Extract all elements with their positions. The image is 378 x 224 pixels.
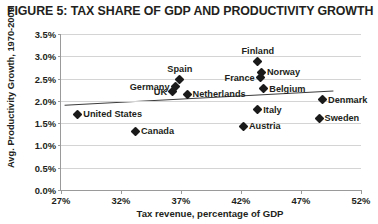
y-tick-label: 3.0% [35, 51, 56, 62]
data-point-label: Netherlands [193, 90, 246, 99]
y-tick-mark [58, 56, 62, 57]
data-point-label: Finland [241, 47, 274, 56]
scatter-chart: Avg. Productivity Growth, 1970-2009 Tax … [0, 18, 378, 224]
y-axis-label: Avg. Productivity Growth, 1970-2009 [6, 8, 16, 168]
data-point[interactable] [314, 113, 324, 123]
y-tick-mark [58, 145, 62, 146]
data-point-label: Norway [267, 68, 300, 77]
data-point-label: Germany [130, 83, 170, 92]
y-tick-mark [58, 34, 62, 35]
data-point-label: United States [83, 110, 142, 119]
y-tick-mark [58, 79, 62, 80]
data-point-label: Denmark [328, 96, 367, 105]
x-tick-label: 32% [112, 195, 131, 206]
y-tick-mark [58, 123, 62, 124]
x-tick-mark [181, 190, 182, 194]
gridline-horizontal [61, 56, 361, 57]
data-point[interactable] [259, 84, 269, 94]
data-point-label: Sweden [325, 114, 360, 123]
gridline-horizontal [61, 123, 361, 124]
x-tick-label: 42% [232, 195, 251, 206]
gridline-horizontal [61, 168, 361, 169]
y-tick-label: 0.5% [35, 162, 56, 173]
data-point-label: Italy [263, 106, 281, 115]
data-point[interactable] [130, 126, 140, 136]
data-point[interactable] [253, 57, 263, 67]
data-point-label: Canada [141, 127, 174, 136]
y-tick-label: 1.0% [35, 140, 56, 151]
data-point-label: Austria [249, 122, 281, 131]
x-tick-mark [61, 190, 62, 194]
gridline-horizontal [61, 145, 361, 146]
y-tick-label: 3.5% [35, 29, 56, 40]
data-point[interactable] [318, 95, 328, 105]
x-tick-label: 47% [292, 195, 311, 206]
figure-container: FIGURE 5: TAX SHARE OF GDP AND PRODUCTIV… [0, 0, 378, 224]
x-tick-mark [301, 190, 302, 194]
data-point[interactable] [182, 89, 192, 99]
y-tick-mark [58, 101, 62, 102]
figure-title: FIGURE 5: TAX SHARE OF GDP AND PRODUCTIV… [7, 4, 377, 18]
x-axis-label: Tax revenue, percentage of GDP [60, 208, 360, 219]
x-tick-label: 37% [172, 195, 191, 206]
x-tick-mark [121, 190, 122, 194]
y-tick-label: 2.5% [35, 73, 56, 84]
data-point-label: Belgium [269, 85, 305, 94]
data-point[interactable] [253, 105, 263, 115]
data-point-label: Spain [167, 65, 192, 74]
y-tick-mark [58, 168, 62, 169]
gridline-horizontal [61, 101, 361, 102]
plot-area: 0.0%0.5%1.0%1.5%2.0%2.5%3.0%3.5%27%32%37… [60, 34, 361, 191]
y-tick-label: 2.0% [35, 95, 56, 106]
y-tick-label: 0.0% [35, 185, 56, 196]
data-point-label: France [225, 74, 255, 83]
x-tick-label: 52% [352, 195, 371, 206]
gridline-horizontal [61, 34, 361, 35]
x-tick-mark [361, 190, 362, 194]
data-point[interactable] [73, 109, 83, 119]
gridline-horizontal [61, 79, 361, 80]
x-tick-label: 27% [52, 195, 71, 206]
y-tick-label: 1.5% [35, 118, 56, 129]
x-tick-mark [241, 190, 242, 194]
